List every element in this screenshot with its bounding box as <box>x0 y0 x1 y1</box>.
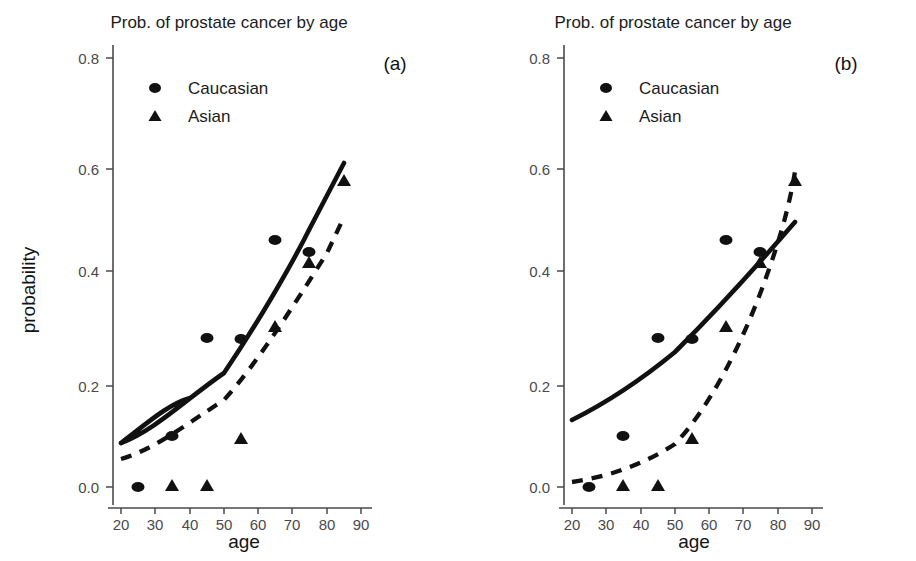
panel-a-legend-label-asian: Asian <box>188 107 231 126</box>
panel-b-legend-label-asian: Asian <box>639 107 682 126</box>
panel-b-xaxis-title: age <box>678 531 710 552</box>
panel-b: Prob. of prostate cancer by age (b) age … <box>458 0 916 561</box>
panel-a-xtick-1: 30 <box>147 516 164 533</box>
panel-b-xtick-5: 70 <box>735 516 752 533</box>
panel-b-xtick-6: 80 <box>770 516 787 533</box>
panel-a-ytick-3: 0.6 <box>78 161 99 178</box>
panel-a-legend: Caucasian Asian <box>149 79 269 126</box>
panel-b-xtick-4: 60 <box>701 516 718 533</box>
data-point-triangle <box>268 320 282 332</box>
panel-a-label: (a) <box>383 53 406 74</box>
panel-b-ytick-0: 0.0 <box>529 479 550 496</box>
panel-b-title: Prob. of prostate cancer by age <box>554 13 791 32</box>
panel-a: Prob. of prostate cancer by age (a) age … <box>0 0 458 561</box>
data-point-circle <box>166 431 179 441</box>
panel-a-legend-label-caucasian: Caucasian <box>188 79 268 98</box>
panel-b-ytick-4: 0.8 <box>529 50 550 67</box>
panel-b-asian-fit-curve <box>572 165 796 482</box>
data-point-circle <box>686 334 699 344</box>
panel-a-x-ticks <box>121 508 361 514</box>
panel-a-caucasian-fit-curve <box>121 163 344 443</box>
legend-circle-marker <box>600 83 612 93</box>
panel-a-ytick-0: 0.0 <box>78 479 99 496</box>
panel-b-plot: Prob. of prostate cancer by age (b) age … <box>458 0 916 561</box>
data-point-circle <box>617 431 630 441</box>
panel-b-ytick-1: 0.2 <box>529 378 550 395</box>
data-point-triangle <box>685 432 699 444</box>
panel-a-xtick-4: 60 <box>250 516 267 533</box>
panel-a-xaxis-title: age <box>228 531 260 552</box>
legend-circle-marker <box>149 83 161 93</box>
data-point-triangle <box>165 479 179 491</box>
panel-b-xtick-0: 20 <box>564 516 581 533</box>
data-point-triangle <box>788 174 802 186</box>
panel-b-legend-label-caucasian: Caucasian <box>639 79 719 98</box>
panel-a-ytick-4: 0.8 <box>78 50 99 67</box>
panel-b-caucasian-points <box>583 235 767 492</box>
panel-b-x-ticks <box>572 508 812 514</box>
data-point-circle <box>269 235 282 245</box>
panel-b-legend: Caucasian Asian <box>600 79 720 126</box>
panel-a-xtick-0: 20 <box>113 516 130 533</box>
panel-a-asian-points <box>165 174 351 491</box>
data-point-triangle <box>200 479 214 491</box>
panel-b-ytick-2: 0.4 <box>529 263 550 280</box>
data-point-triangle <box>616 479 630 491</box>
data-point-circle <box>754 247 767 257</box>
panel-a-xtick-3: 50 <box>216 516 233 533</box>
panel-b-label: (b) <box>834 53 857 74</box>
legend-triangle-marker <box>149 110 162 121</box>
panel-a-ytick-2: 0.4 <box>78 263 99 280</box>
panel-a-yaxis-title: probability <box>18 246 39 333</box>
data-point-triangle <box>719 320 733 332</box>
panel-a-xtick-2: 40 <box>182 516 199 533</box>
panel-a-ytick-1: 0.2 <box>78 378 99 395</box>
data-point-circle <box>235 334 248 344</box>
panel-b-ytick-3: 0.6 <box>529 161 550 178</box>
data-point-triangle <box>651 479 665 491</box>
data-point-circle <box>132 482 145 492</box>
data-point-circle <box>303 247 316 257</box>
panel-b-y-ticks <box>557 58 564 487</box>
data-point-triangle <box>234 432 248 444</box>
data-point-circle <box>583 482 596 492</box>
panel-a-title: Prob. of prostate cancer by age <box>110 13 347 32</box>
panel-b-asian-points <box>616 174 802 491</box>
panel-b-xtick-7: 90 <box>804 516 821 533</box>
data-point-circle <box>652 333 665 343</box>
figure-container: Prob. of prostate cancer by age (a) age … <box>0 0 916 561</box>
data-point-triangle <box>302 256 316 268</box>
panel-a-xtick-5: 70 <box>284 516 301 533</box>
data-point-circle <box>201 333 214 343</box>
panel-b-xtick-2: 40 <box>633 516 650 533</box>
panel-a-xtick-6: 80 <box>319 516 336 533</box>
data-point-circle <box>720 235 733 245</box>
panel-a-y-ticks <box>106 58 113 487</box>
panel-a-xtick-7: 90 <box>353 516 370 533</box>
panel-a-plot: Prob. of prostate cancer by age (a) age … <box>0 0 458 561</box>
panel-b-xtick-3: 50 <box>667 516 684 533</box>
panel-b-xtick-1: 30 <box>598 516 615 533</box>
legend-triangle-marker <box>600 110 613 121</box>
